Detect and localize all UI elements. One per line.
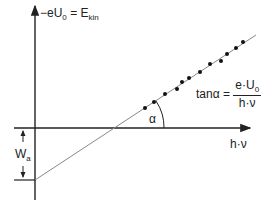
formula-denominator: h·ν [239,96,256,109]
x-axis-label: h·ν [230,138,247,150]
y-label-eq: = E [67,6,89,20]
y-label-prefix: −eU [40,6,62,20]
y-axis-label: −eU0 = Ekin [40,7,99,22]
wa-main: W [15,147,26,161]
angle-arc [156,101,164,128]
num-sub: 0 [255,85,259,94]
formula-lhs: tanα = [196,87,233,101]
slope-formula: tanα = e·U0h·ν [196,79,261,109]
angle-label: α [149,113,156,125]
num-main: e·U [235,78,254,92]
wa-sub: a [26,154,30,163]
work-function-label: Wa [15,148,31,163]
formula-numerator: e·U0 [233,79,261,96]
y-label-sub2: kin [89,13,99,22]
formula-fraction: e·U0h·ν [233,79,261,109]
